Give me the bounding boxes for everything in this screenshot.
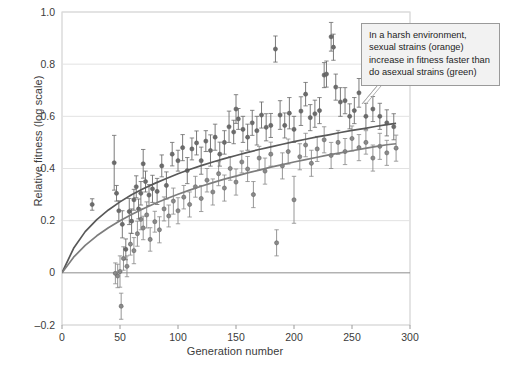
data-point (257, 156, 261, 160)
data-point (273, 47, 277, 51)
y-tick-label: 1.0 (40, 6, 55, 18)
data-point (234, 107, 238, 111)
data-point (315, 147, 319, 151)
data-point (208, 148, 212, 152)
data-point (364, 140, 368, 144)
data-point (394, 146, 398, 150)
data-point (134, 185, 138, 189)
data-point (250, 121, 254, 125)
data-point (114, 191, 118, 195)
data-point (153, 220, 157, 224)
data-point (170, 152, 174, 156)
data-point (322, 138, 326, 142)
data-point (139, 217, 143, 221)
data-point (116, 274, 120, 278)
data-point (313, 112, 317, 116)
data-point (269, 123, 273, 127)
data-point (392, 125, 396, 129)
data-point (286, 149, 290, 153)
data-point (155, 189, 159, 193)
data-point (199, 196, 203, 200)
annotation-line-2: sexual strains (orange) (369, 41, 493, 53)
data-point (292, 198, 296, 202)
x-tick-label: 250 (343, 331, 361, 343)
data-point (217, 172, 221, 176)
data-point (164, 183, 168, 187)
data-point (371, 107, 375, 111)
data-point (181, 146, 185, 150)
data-point (176, 159, 180, 163)
data-point (90, 202, 94, 206)
data-point (304, 92, 308, 96)
y-tick-label: –0.2 (35, 319, 56, 331)
data-point (378, 114, 382, 118)
data-point (299, 109, 303, 113)
x-tick-label: 0 (59, 331, 65, 343)
data-point (287, 111, 291, 115)
data-point (364, 114, 368, 118)
data-point (269, 152, 273, 156)
data-point (234, 180, 238, 184)
data-point (241, 127, 245, 131)
data-point (278, 113, 282, 117)
data-point (182, 195, 186, 199)
data-point (213, 135, 217, 139)
data-point (298, 155, 302, 159)
data-point (135, 232, 139, 236)
data-point (259, 113, 263, 117)
data-point (112, 161, 116, 165)
annotation-callout: In a harsh environment, sexual strains (… (361, 23, 500, 86)
data-point (188, 202, 192, 206)
data-point (309, 161, 313, 165)
data-point (145, 213, 149, 217)
data-point (343, 99, 347, 103)
data-point (222, 186, 226, 190)
data-point (130, 219, 134, 223)
data-point (143, 179, 147, 183)
data-point (308, 116, 312, 120)
chart-figure: –0.200.20.40.60.81.0050100150200250300 R… (0, 0, 526, 373)
data-point (190, 147, 194, 151)
data-point (251, 192, 255, 196)
data-point (228, 166, 232, 170)
data-point (348, 114, 352, 118)
data-point (139, 191, 143, 195)
data-point (275, 241, 279, 245)
data-point (162, 207, 166, 211)
data-point (352, 108, 356, 112)
data-point (128, 242, 132, 246)
data-point (204, 139, 208, 143)
data-point (304, 143, 308, 147)
data-point (240, 160, 244, 164)
data-point (160, 164, 164, 168)
data-point (283, 123, 287, 127)
data-point (120, 222, 124, 226)
data-point (141, 162, 145, 166)
data-point (246, 167, 250, 171)
data-point (255, 129, 259, 133)
x-tick-label: 100 (169, 331, 187, 343)
data-point (119, 304, 123, 308)
data-point (357, 91, 361, 95)
x-axis-label: Generation number (0, 345, 470, 357)
data-point (324, 72, 328, 76)
data-point (147, 193, 151, 197)
annotation-line-1: In a harsh environment, (369, 29, 493, 41)
data-point (167, 214, 171, 218)
data-point (336, 140, 340, 144)
data-point (331, 45, 335, 49)
data-point (222, 140, 226, 144)
data-point (150, 187, 154, 191)
data-point (338, 100, 342, 104)
data-point (157, 228, 161, 232)
data-point (199, 159, 203, 163)
data-point (334, 85, 338, 89)
data-point (132, 249, 136, 253)
x-tick-label: 300 (401, 331, 419, 343)
data-point (176, 209, 180, 213)
data-point (127, 209, 131, 213)
data-point (194, 141, 198, 145)
data-point (171, 199, 175, 203)
data-point (227, 125, 231, 129)
x-tick-label: 200 (285, 331, 303, 343)
